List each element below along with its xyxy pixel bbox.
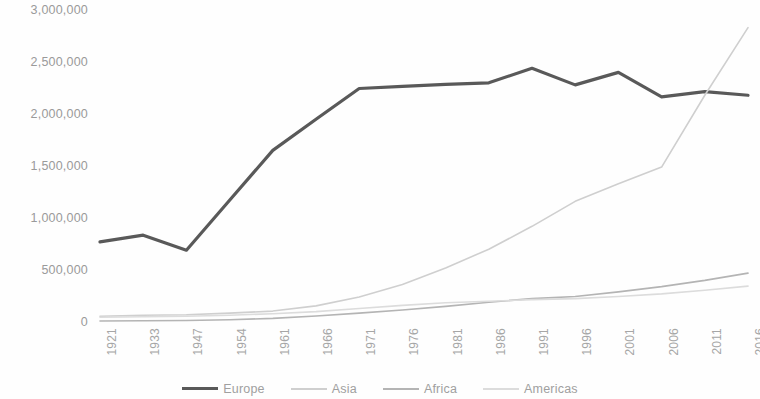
legend-item-europe[interactable]: Europe <box>182 382 265 396</box>
legend-swatch-africa <box>383 384 419 394</box>
plot-svg <box>96 10 752 322</box>
y-axis-tick: 3,000,000 <box>31 3 88 17</box>
legend-line <box>182 387 218 390</box>
x-axis-tick: 1981 <box>451 328 465 356</box>
y-axis-tick: 1,000,000 <box>31 211 88 225</box>
legend-swatch-americas <box>483 384 519 394</box>
legend-label: Asia <box>332 382 357 396</box>
series-line-americas <box>100 286 748 317</box>
x-axis-tick: 1991 <box>537 328 551 356</box>
legend-label: Americas <box>524 382 578 396</box>
x-axis-tick: 1996 <box>580 328 594 356</box>
y-axis-tick: 2,000,000 <box>31 107 88 121</box>
y-axis-tick: 2,500,000 <box>31 55 88 69</box>
x-axis-tick: 1933 <box>148 328 162 356</box>
legend-line <box>483 388 519 390</box>
y-axis-tick: 500,000 <box>41 263 88 277</box>
legend-item-americas[interactable]: Americas <box>483 382 578 396</box>
legend-label: Africa <box>424 382 457 396</box>
x-axis-tick: 1921 <box>105 328 119 356</box>
x-axis-tick: 1954 <box>235 328 249 356</box>
series-line-asia <box>100 28 748 317</box>
x-axis: 1921193319471954196119661971197619811986… <box>96 324 752 376</box>
line-chart: 0500,0001,000,0001,500,0002,000,0002,500… <box>0 0 760 399</box>
series-line-europe <box>100 68 748 250</box>
plot-area <box>96 10 752 322</box>
x-axis-tick: 1976 <box>407 328 421 356</box>
legend-item-africa[interactable]: Africa <box>383 382 457 396</box>
x-axis-tick: 2001 <box>623 328 637 356</box>
legend-line <box>383 388 419 390</box>
x-axis-tick: 1966 <box>321 328 335 356</box>
x-axis-tick: 1961 <box>278 328 292 356</box>
legend-swatch-asia <box>291 384 327 394</box>
y-axis-tick: 1,500,000 <box>31 159 88 173</box>
legend-line <box>291 388 327 390</box>
y-axis-tick: 0 <box>81 315 88 329</box>
x-axis-tick: 2011 <box>710 328 724 355</box>
legend-label: Europe <box>223 382 265 396</box>
x-axis-tick: 1986 <box>494 328 508 356</box>
y-axis: 0500,0001,000,0001,500,0002,000,0002,500… <box>0 0 96 340</box>
x-axis-tick: 1947 <box>191 328 205 356</box>
legend-item-asia[interactable]: Asia <box>291 382 357 396</box>
x-axis-tick: 2006 <box>667 328 681 356</box>
x-axis-tick: 2016 <box>753 328 760 356</box>
x-axis-tick: 1971 <box>364 328 378 356</box>
chart-legend: EuropeAsiaAfricaAmericas <box>0 378 760 399</box>
legend-swatch-europe <box>182 384 218 394</box>
